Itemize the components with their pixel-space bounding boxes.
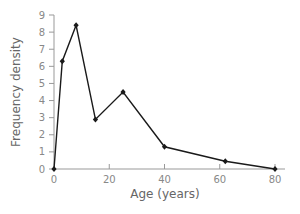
x-axis-label: Age (years) <box>130 187 199 201</box>
data-point-marker <box>60 58 65 64</box>
x-tick-label: 0 <box>51 174 57 185</box>
y-tick-label: 4 <box>39 95 45 106</box>
data-point-marker <box>272 166 277 172</box>
data-point-marker <box>223 158 228 164</box>
y-tick-label: 2 <box>39 129 45 140</box>
data-series <box>51 22 277 172</box>
data-point-marker <box>51 166 56 172</box>
y-tick-label: 0 <box>39 164 45 175</box>
axes <box>49 15 285 169</box>
x-tick-label: 80 <box>269 174 282 185</box>
x-tick-label: 60 <box>213 174 226 185</box>
y-tick-label: 8 <box>39 27 45 38</box>
y-tick-label: 7 <box>39 44 45 55</box>
y-tick-label: 3 <box>39 112 45 123</box>
frequency-polygon-chart: 0123456789020406080 Age (years) Frequenc… <box>0 0 300 214</box>
y-tick-label: 5 <box>39 78 45 89</box>
y-tick-label: 6 <box>39 61 45 72</box>
data-point-marker <box>74 22 79 28</box>
y-tick-label: 1 <box>39 146 45 157</box>
y-axis-label: Frequency density <box>9 37 23 147</box>
x-tick-label: 40 <box>158 174 171 185</box>
y-tick-label: 9 <box>39 10 45 21</box>
x-tick-label: 20 <box>103 174 116 185</box>
tick-labels: 0123456789020406080 <box>39 10 282 186</box>
